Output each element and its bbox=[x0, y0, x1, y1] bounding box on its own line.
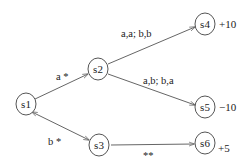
node-label-s1: s1 bbox=[21, 98, 31, 110]
edge-label-s2-s5: a,b; b,a bbox=[143, 75, 174, 86]
node-label-s3: s3 bbox=[94, 139, 104, 151]
state-diagram: a * b * a,a; b,b a,b; b,a ** s1 s2 s3 s4… bbox=[0, 0, 245, 166]
node-s3: s3 bbox=[89, 134, 109, 156]
edge-label-s2-s4: a,a; b,b bbox=[121, 28, 152, 39]
edge-label-s3-s6: ** bbox=[143, 150, 154, 161]
edge-s3-s6 bbox=[111, 144, 194, 145]
reward-s4: +10 bbox=[219, 18, 237, 30]
node-s5: s5 bbox=[195, 96, 215, 118]
reward-s5: −10 bbox=[219, 101, 237, 113]
node-label-s2: s2 bbox=[93, 63, 103, 75]
node-s2: s2 bbox=[88, 58, 108, 80]
node-label-s4: s4 bbox=[200, 18, 210, 30]
reward-s6: +5 bbox=[218, 142, 230, 154]
edge-label-s1-s2: a * bbox=[56, 71, 69, 82]
node-label-s5: s5 bbox=[200, 101, 210, 113]
node-label-s6: s6 bbox=[200, 137, 210, 149]
node-s6: s6 bbox=[195, 132, 215, 154]
edge-label-s1-s3: b * bbox=[48, 136, 61, 147]
node-s4: s4 bbox=[195, 13, 215, 35]
node-s1: s1 bbox=[16, 93, 36, 115]
